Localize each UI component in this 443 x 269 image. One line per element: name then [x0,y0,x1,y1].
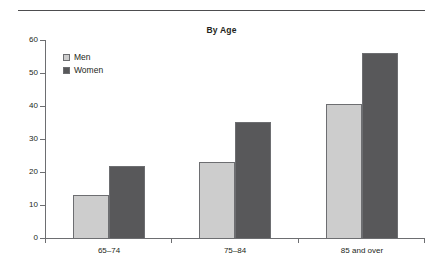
x-axis-label-65-74: 65–74 [68,246,150,256]
bar-men-65-74 [73,195,109,239]
legend-label-women: Women [74,66,103,75]
x-axis-tick [298,238,299,243]
y-axis-line [45,40,46,239]
chart-title: By Age [0,25,443,35]
y-axis-label-wrap: 30 [0,135,38,143]
x-axis-label-75-84: 75–84 [194,246,276,256]
header-rule [18,10,425,11]
y-axis-tick [40,205,45,206]
x-axis-tick [424,238,425,243]
y-axis-label-wrap: 60 [0,36,38,44]
legend-item-men: Men [63,52,103,63]
x-axis-tick [45,238,46,243]
legend-label-men: Men [74,53,91,62]
bar-women-75-84 [235,122,271,239]
y-axis-label-wrap: 50 [0,69,38,77]
y-axis-label: 50 [4,69,38,77]
y-axis-label-wrap: 40 [0,102,38,110]
chart-figure: By Age 60 50 40 30 20 10 0 65–74 75 [0,0,443,269]
y-axis-label: 20 [4,168,38,176]
y-axis-label: 30 [4,135,38,143]
bar-men-75-84 [199,162,235,239]
y-axis-tick [40,106,45,107]
x-axis-tick [171,238,172,243]
y-axis-tick [40,172,45,173]
y-axis-label: 60 [4,36,38,44]
y-axis-tick [40,40,45,41]
y-axis-label-wrap: 0 [0,234,38,242]
bar-women-85-and-over [362,53,398,239]
y-axis-label-wrap: 20 [0,168,38,176]
x-axis-label-85-and-over: 85 and over [321,246,403,256]
y-axis-tick [40,139,45,140]
women-swatch-icon [63,67,70,74]
bar-men-85-and-over [326,104,362,239]
legend-item-women: Women [63,65,103,76]
y-axis-label: 10 [4,201,38,209]
bar-women-65-74 [109,166,145,239]
y-axis-tick [40,73,45,74]
y-axis-label: 0 [4,234,38,242]
chart-legend: Men Women [63,52,103,78]
men-swatch-icon [63,54,70,61]
y-axis-label-wrap: 10 [0,201,38,209]
y-axis-label: 40 [4,102,38,110]
